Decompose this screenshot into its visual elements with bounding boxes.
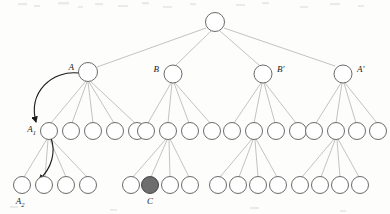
node-level2-b1[interactable]: [160, 123, 177, 140]
edge-Bp1-c1: [239, 140, 253, 177]
node-level3-bp0[interactable]: [210, 177, 227, 194]
node-circle[interactable]: [164, 65, 182, 83]
edge-Bp-c0: [234, 83, 261, 123]
node-label-B-prime: B′: [277, 64, 285, 74]
edge-B-c2: [174, 83, 189, 123]
node-circle[interactable]: [79, 63, 98, 82]
node-level3-a2[interactable]: [58, 177, 75, 194]
node-label-A1: A1: [26, 124, 36, 136]
edge-B1-c0: [133, 139, 166, 177]
level2-group-A-prime: [306, 123, 387, 140]
node-level2-b2[interactable]: [182, 123, 199, 140]
node-level2-b0[interactable]: [138, 123, 155, 140]
edge-root-B: [176, 31, 211, 65]
node-level3-a0[interactable]: [14, 177, 31, 194]
edge-B1-c2: [169, 140, 170, 177]
edge-root-Bp: [220, 31, 259, 65]
node-B[interactable]: B: [154, 64, 183, 83]
node-level3-bp3[interactable]: [270, 177, 287, 194]
node-level3-ap1[interactable]: [312, 177, 329, 194]
node-A-prime[interactable]: A′: [334, 64, 365, 83]
edge-A-c2: [88, 82, 93, 123]
edge-B-c1: [168, 83, 172, 123]
node-level3-b2[interactable]: [162, 177, 179, 194]
node-level2-a2[interactable]: [85, 123, 102, 140]
level2-group-B: [138, 123, 221, 140]
node-level3-bp1[interactable]: [230, 177, 247, 194]
edge-root-A: [97, 28, 206, 67]
edge-root-Ap: [224, 28, 335, 66]
level3-group-Bp1: [210, 177, 287, 194]
node-label-A-prime: A′: [356, 64, 365, 74]
pointer-A1-to-A2: [39, 138, 53, 180]
edge-Ap1-c3: [338, 139, 359, 177]
node-A2[interactable]: [36, 177, 53, 194]
node-level2-bp3[interactable]: [290, 123, 307, 140]
node-A1[interactable]: [41, 123, 58, 140]
node-level3-b0[interactable]: [123, 177, 140, 194]
node-circle[interactable]: [254, 65, 272, 83]
node-level2-ap0[interactable]: [306, 123, 323, 140]
edge-Ap-c0: [316, 83, 341, 123]
node-level2-bp1[interactable]: [246, 123, 263, 140]
edge-A1-c3: [51, 139, 87, 177]
level3-group-Ap1: [292, 177, 369, 194]
edge-A-c3: [89, 82, 114, 123]
edge-Bp1-c3: [256, 139, 277, 177]
edges-level2-level3: [24, 139, 359, 177]
edge-Bp1-c0: [220, 139, 252, 177]
edge-Ap1-c0: [302, 139, 334, 177]
node-label-A: A: [68, 62, 75, 72]
node-level2-bp0[interactable]: [224, 123, 241, 140]
edge-A-c0: [51, 81, 86, 123]
edge-B-c3: [175, 83, 210, 123]
level3-group-B1: C: [123, 177, 199, 207]
node-label-B: B: [154, 64, 160, 74]
edges-level1-level2: [51, 81, 377, 123]
node-circle[interactable]: [334, 65, 352, 83]
edge-Ap1-c2: [337, 140, 340, 177]
edge-B1-c1: [151, 140, 167, 177]
node-B-prime[interactable]: B′: [254, 64, 285, 83]
node-level3-ap3[interactable]: [352, 177, 369, 194]
node-label-A2: A2: [15, 196, 26, 208]
figure-canvas: A B B′ A′ A1: [0, 0, 390, 214]
node-circle[interactable]: [206, 13, 225, 32]
node-root[interactable]: [206, 13, 225, 32]
node-level3-a3[interactable]: [80, 177, 97, 194]
edges-root-level1: [97, 28, 335, 67]
node-label-C: C: [147, 196, 154, 206]
edge-A1-c0: [24, 139, 47, 177]
edge-A-c1: [72, 82, 87, 123]
level3-group-A1: A2: [14, 177, 97, 208]
node-level2-ap3[interactable]: [370, 123, 387, 140]
node-level3-b3[interactable]: [182, 177, 199, 194]
node-level3-ap0[interactable]: [292, 177, 309, 194]
node-A[interactable]: A: [68, 62, 98, 82]
node-level3-bp2[interactable]: [250, 177, 267, 194]
edge-B1-c3: [170, 139, 189, 177]
node-level2-ap2[interactable]: [349, 123, 366, 140]
node-level3-ap2[interactable]: [332, 177, 349, 194]
node-level2-bp2[interactable]: [268, 123, 285, 140]
edge-Bp1-c2: [255, 140, 258, 177]
edge-Ap1-c1: [321, 140, 335, 177]
node-level2-a1[interactable]: [63, 123, 80, 140]
level2-group-B-prime: [224, 123, 307, 140]
edge-B-c0: [148, 83, 171, 123]
node-level2-ap1[interactable]: [328, 123, 345, 140]
level2-group-A: A1: [26, 123, 145, 140]
tree-diagram: A B B′ A′ A1: [0, 0, 390, 214]
node-C[interactable]: [142, 177, 159, 194]
edge-Bp-c1: [254, 83, 262, 123]
node-level2-a3[interactable]: [107, 123, 124, 140]
node-level2-b3[interactable]: [204, 123, 221, 140]
edge-A-c4: [90, 81, 135, 123]
